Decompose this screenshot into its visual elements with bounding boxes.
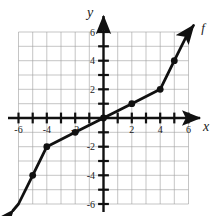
x-axis-label: x [202, 119, 210, 134]
x-tick-label-neg4: -4 [43, 124, 51, 135]
y-tick-label-pos6: 6 [90, 27, 95, 38]
y-tick-label-neg2: -2 [87, 141, 95, 152]
data-point [157, 86, 164, 93]
y-tick-label-neg4: -4 [87, 170, 95, 181]
data-point [29, 172, 36, 179]
data-point [128, 100, 135, 107]
x-tick-label-pos6: 6 [186, 124, 191, 135]
x-tick-label-neg6: -6 [14, 124, 22, 135]
data-point [100, 115, 107, 122]
y-tick-label-pos4: 4 [90, 55, 95, 66]
y-tick-label-neg6: -6 [87, 199, 95, 210]
data-point [171, 57, 178, 64]
x-tick-label-pos4: 4 [158, 124, 163, 135]
x-tick-label-pos2: 2 [129, 124, 134, 135]
graph-figure: -6 -4 -2 2 4 6 6 4 2 -2 -4 -6 x y f [0, 0, 220, 216]
y-tick-label-pos2: 2 [90, 84, 95, 95]
coordinate-plane: -6 -4 -2 2 4 6 6 4 2 -2 -4 -6 x y f [0, 0, 220, 216]
data-point [43, 143, 50, 150]
data-point [72, 129, 79, 136]
y-axis-label: y [85, 5, 94, 20]
